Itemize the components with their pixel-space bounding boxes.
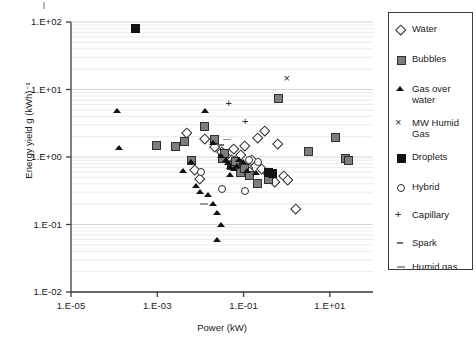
square-black-icon: [394, 151, 407, 162]
data-point: [243, 168, 251, 173]
y-axis-title: Energy yield g (kWh)⁻¹: [23, 51, 34, 211]
data-point: [152, 141, 161, 150]
data-point: [115, 145, 123, 150]
legend-label: Spark: [412, 237, 437, 248]
y-tick-label: 1.E+00: [10, 151, 62, 162]
legend-label: Water: [412, 23, 437, 34]
spark-dash-icon: [394, 237, 407, 248]
legend-item: Water: [394, 23, 437, 34]
data-point: [171, 142, 180, 151]
plus-icon: +: [394, 209, 407, 220]
y-tick-label: 1.E-01: [10, 219, 62, 230]
x-tick-label: 1.E-05: [41, 300, 101, 311]
data-point: [200, 203, 208, 205]
x-cross-icon: ×: [394, 117, 407, 128]
legend-label: Gas over water: [412, 83, 451, 105]
data-point: [213, 210, 221, 215]
data-point: +: [226, 98, 232, 109]
data-point: [201, 108, 209, 113]
data-point: [268, 169, 277, 178]
data-point: [180, 137, 189, 146]
legend-item: Droplets: [394, 151, 447, 162]
data-point: ×: [284, 73, 290, 84]
x-axis-title: Power (kW): [71, 322, 373, 333]
data-point: [252, 170, 260, 175]
data-point: [226, 172, 234, 177]
legend-item: Gas over water: [394, 83, 451, 105]
data-point: [304, 147, 313, 156]
chart-legend: WaterBubblesGas over water×MW Humid GasD…: [388, 12, 473, 270]
legend-item: Bubbles: [394, 53, 446, 64]
data-point: [253, 179, 262, 188]
data-point: [218, 144, 224, 146]
y-tick-label: 1.E-02: [10, 286, 62, 297]
data-point: [218, 185, 226, 193]
x-tick-label: 1.E-03: [127, 300, 187, 311]
legend-label: Hybrid: [412, 181, 439, 192]
legend-item: ×MW Humid Gas: [394, 117, 459, 139]
x-tick-label: 1.E+01: [300, 300, 360, 311]
data-point: [217, 222, 225, 227]
legend-item: Hybrid: [394, 181, 439, 192]
data-point: [192, 183, 200, 188]
circle-open-icon: [394, 181, 407, 192]
data-point: [200, 122, 209, 131]
legend-label: Bubbles: [412, 53, 446, 64]
scatter-chart-figure: Energy yield g (kWh)⁻¹ Power (kW) 1.E+02…: [0, 0, 476, 344]
data-point: [331, 133, 340, 142]
data-point: [223, 139, 231, 141]
y-tick-label: 1.E+01: [10, 84, 62, 95]
dash-gray-icon: [394, 261, 407, 270]
data-point: [204, 192, 212, 197]
legend-label: MW Humid Gas: [412, 117, 459, 139]
diamond-open-icon: [394, 23, 407, 34]
data-point: [344, 156, 353, 165]
legend-item: +Capillary: [394, 209, 449, 220]
legend-label: Capillary: [412, 209, 449, 220]
data-point: [241, 187, 249, 195]
legend-item: Spark: [394, 237, 437, 248]
legend-label: Humid gas: [412, 261, 457, 270]
triangle-filled-icon: [394, 83, 407, 94]
x-tick-label: 1.E-01: [214, 300, 274, 311]
legend-item: Humid gas: [394, 261, 457, 270]
data-point: [131, 24, 140, 33]
data-point: +: [242, 116, 248, 127]
data-point: [209, 201, 217, 206]
data-point: [209, 140, 217, 145]
data-point: [187, 159, 195, 164]
square-gray-icon: [394, 53, 407, 64]
legend-label: Droplets: [412, 151, 447, 162]
data-point: [274, 94, 283, 103]
data-point: [179, 168, 187, 173]
data-point: [213, 237, 221, 242]
data-point: [254, 158, 262, 166]
data-point: [113, 108, 121, 113]
y-tick-label: 1.E+02: [10, 16, 62, 27]
